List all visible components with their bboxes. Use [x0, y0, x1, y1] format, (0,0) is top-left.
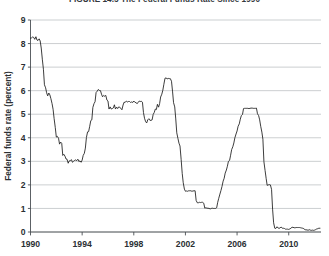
y-axis-label: Federal funds rate (percent) — [3, 71, 13, 181]
x-tick-label: 2010 — [279, 239, 298, 249]
figure-container: FIGURE 14.5 The Federal Funds Rate Since… — [0, 0, 329, 256]
y-tick-label: 4 — [21, 133, 26, 143]
x-tick-label: 2006 — [228, 239, 247, 249]
x-axis-ticks: 199019941998200220062010 — [21, 232, 299, 249]
gridlines — [31, 20, 322, 232]
x-tick-label: 2002 — [176, 239, 195, 249]
y-tick-label: 3 — [21, 156, 26, 166]
x-tick-label: 1994 — [73, 239, 92, 249]
y-axis-ticks: 0123456789 — [21, 15, 31, 237]
y-tick-label: 0 — [21, 227, 26, 237]
chart-plot-area: 0123456789 199019941998200220062010 Fede… — [0, 0, 329, 256]
y-tick-label: 7 — [21, 62, 26, 72]
x-tick-label: 1990 — [21, 239, 40, 249]
y-tick-label: 2 — [21, 180, 26, 190]
federal-funds-rate-line — [31, 37, 320, 231]
axis-lines — [31, 20, 322, 232]
y-tick-label: 5 — [21, 109, 26, 119]
y-tick-label: 1 — [21, 204, 26, 214]
y-tick-label: 6 — [21, 86, 26, 96]
y-tick-label: 9 — [21, 15, 26, 25]
y-tick-label: 8 — [21, 39, 26, 49]
x-tick-label: 1998 — [124, 239, 143, 249]
